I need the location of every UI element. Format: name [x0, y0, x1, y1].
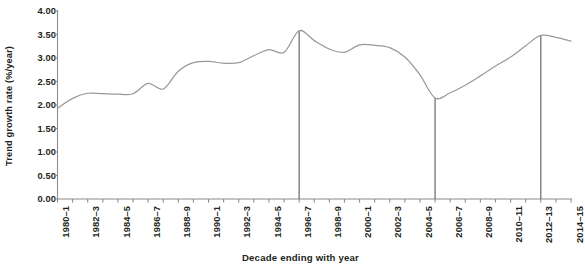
x-axis-tick-label: 1998–9	[333, 206, 343, 238]
data-series-line	[58, 30, 572, 108]
x-axis-tick-label: 2008–9	[484, 206, 494, 238]
x-axis-tick-label: 1994–5	[273, 206, 283, 238]
x-axis-tick-label: 2000–1	[363, 206, 373, 238]
x-axis-tick-label: 2006–7	[454, 206, 464, 238]
x-axis-tick-label: 1982–3	[91, 206, 101, 238]
x-axis-tick-label: 1988–9	[182, 206, 192, 238]
x-axis-tick-label: 1992–3	[242, 206, 252, 238]
x-axis-tick-label: 2014–15	[575, 206, 585, 243]
x-axis-tick-label: 1996–7	[303, 206, 313, 238]
x-axis-tick-label: 1986–7	[152, 206, 162, 238]
x-axis-tick-label: 2004–5	[424, 206, 434, 238]
x-axis-tick-label: 1990–1	[212, 206, 222, 238]
x-axis-title: Decade ending with year	[30, 252, 571, 263]
x-axis-tick-label: 2010–11	[514, 206, 524, 242]
x-axis-tick-label: 2012–13	[544, 206, 554, 243]
x-axis-title-text: Decade ending with year	[242, 252, 359, 263]
x-axis-tick-label: 1984–5	[122, 206, 132, 238]
x-axis-tick-label: 2002–3	[393, 206, 403, 238]
x-axis-tick-label: 1980–1	[61, 206, 71, 238]
